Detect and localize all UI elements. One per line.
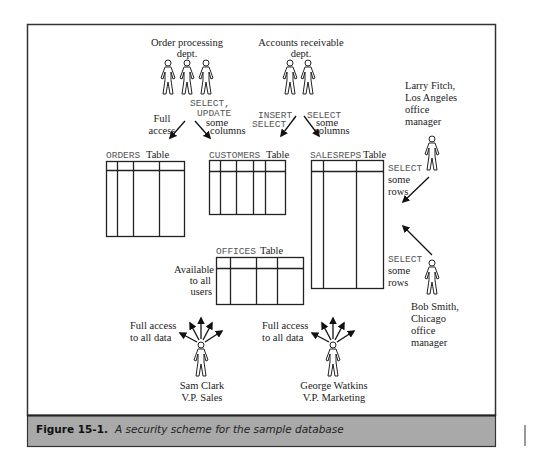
customers-table-suffix: Table [266, 149, 290, 160]
order-processing-label: Order processing [151, 37, 224, 48]
bob-label-4: manager [411, 337, 448, 348]
orders-table-suffix: Table [146, 149, 170, 160]
george-label-2: V.P. Marketing [303, 392, 366, 403]
privilege-select-some-cols-2: columns [314, 125, 350, 136]
bob-privilege-rows: rows [388, 277, 408, 288]
salesreps-table-suffix: Table [363, 149, 387, 160]
privilege-some-columns-2: columns [210, 125, 246, 136]
sam-label: Sam Clark [180, 380, 225, 391]
orders-table-name: ORDERS [106, 150, 141, 161]
caption-number: Figure 15-1. [36, 423, 108, 435]
larry-label: Larry Fitch, [405, 80, 455, 91]
salesreps-table-name: SALESREPS [310, 150, 362, 161]
accounts-receivable-label: Accounts receivable [258, 37, 344, 48]
bob-privilege-select: SELECT [388, 254, 423, 265]
sam-full-access-label: Full access [130, 320, 176, 331]
larry-label-3: office [405, 104, 430, 115]
offices-table-name: OFFICES [216, 246, 256, 257]
customers-table-name: CUSTOMERS [209, 150, 261, 161]
george-label: George Watkins [300, 380, 367, 391]
caption-text: A security scheme for the sample databas… [114, 423, 344, 435]
larry-privilege-some: some [388, 174, 411, 185]
accounts-receivable-label-2: dept. [291, 48, 312, 59]
larry-label-4: manager [405, 116, 442, 127]
larry-privilege-rows: rows [388, 186, 408, 197]
order-processing-label-2: dept. [177, 48, 198, 59]
bob-label-2: Chicago [411, 313, 446, 324]
sam-label-2: V.P. Sales [182, 392, 223, 403]
offices-available-label: Available [174, 264, 214, 275]
larry-privilege-select: SELECT [388, 163, 423, 174]
privilege-full-access-2: access [149, 125, 176, 136]
security-scheme-diagram: Figure 15-1. A security scheme for the s… [0, 0, 559, 457]
privilege-full-access: Full [154, 113, 171, 124]
offices-table-suffix: Table [260, 245, 284, 256]
privilege-insert-select-2: SELECT [252, 119, 287, 130]
george-full-access-label-2: to all data [262, 332, 304, 343]
offices-available-label-3: users [190, 286, 212, 297]
offices-available-label-2: to all [190, 275, 211, 286]
sam-full-access-label-2: to all data [130, 332, 172, 343]
bob-label: Bob Smith, [411, 301, 459, 312]
larry-label-2: Los Angeles [405, 92, 457, 103]
bob-privilege-some: some [388, 265, 411, 276]
bob-label-3: office [411, 325, 436, 336]
george-full-access-label: Full access [262, 320, 308, 331]
